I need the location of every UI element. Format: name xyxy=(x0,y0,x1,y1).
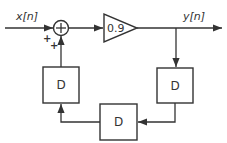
output-label: y[n] xyxy=(182,10,205,23)
delay-left-label: D xyxy=(56,78,65,92)
gain-value: 0.9 xyxy=(107,22,125,35)
input-label: x[n] xyxy=(15,10,38,23)
adder xyxy=(54,21,69,36)
right-to-bottom-wire xyxy=(138,103,175,122)
adder-sign-feedback: + xyxy=(50,40,58,51)
bottom-to-left-wire xyxy=(61,104,100,122)
delay-bottom-label: D xyxy=(114,115,123,129)
block-diagram: x[n] + + 0.9 y[n] D D D xyxy=(0,0,227,143)
delay-right-label: D xyxy=(170,79,179,93)
